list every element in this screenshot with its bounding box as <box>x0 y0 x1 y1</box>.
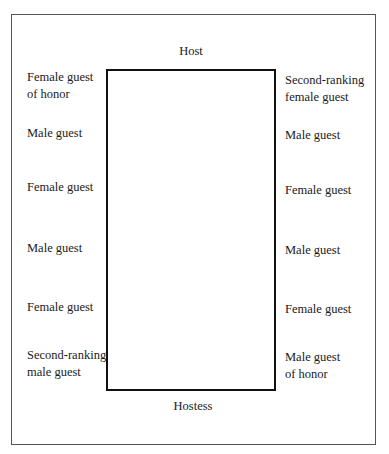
host-label: Host <box>141 43 241 60</box>
hostess-label: Hostess <box>143 398 243 415</box>
right-seat-3: Female guest <box>285 182 351 199</box>
dining-table <box>106 69 276 391</box>
right-seat-6: Male guest of honor <box>285 349 340 383</box>
right-seat-2: Male guest <box>285 127 340 144</box>
right-seat-1: Second-ranking female guest <box>285 72 364 106</box>
left-seat-1: Female guest of honor <box>27 69 93 103</box>
right-seat-4: Male guest <box>285 242 340 259</box>
left-seat-4: Male guest <box>27 240 82 257</box>
left-seat-2: Male guest <box>27 125 82 142</box>
left-seat-6: Second-ranking male guest <box>27 347 106 381</box>
right-seat-5: Female guest <box>285 301 351 318</box>
left-seat-5: Female guest <box>27 299 93 316</box>
left-seat-3: Female guest <box>27 179 93 196</box>
